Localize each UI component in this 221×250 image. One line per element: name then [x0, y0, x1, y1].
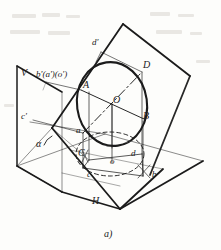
point-label-A: A — [83, 80, 89, 90]
point-label-C: C — [78, 148, 85, 158]
projection-label-o: o — [110, 157, 115, 166]
angle-alpha-arc — [44, 136, 52, 145]
plane-label-H: H — [92, 196, 99, 206]
projection-label-b: b — [152, 170, 157, 179]
projection-label-c-prime: c' — [21, 112, 27, 121]
angle-label-alpha: α — [36, 139, 41, 149]
geometry-drawing — [0, 0, 221, 250]
projection-label-b-a-o-prime: b'(a')(o') — [36, 70, 67, 79]
projection-label-d: d — [131, 149, 136, 158]
projection-label-c: c — [87, 170, 91, 179]
point-label-B: B — [143, 111, 149, 121]
projection-label-a: a — [76, 126, 81, 135]
point-label-D: D — [143, 60, 150, 70]
point-b-ticks — [138, 165, 150, 178]
point-label-O: O — [113, 95, 120, 105]
projection-label-d-prime: d' — [92, 38, 98, 47]
horizontal-plane-H — [17, 161, 203, 209]
figure-caption: a) — [104, 229, 112, 239]
figure-container: V H α A B C D O a b c d o d' c' b'(a')(o… — [0, 0, 221, 250]
plane-label-V: V — [21, 68, 27, 78]
